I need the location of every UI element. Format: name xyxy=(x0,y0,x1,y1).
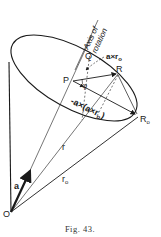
cone-left-edge xyxy=(9,62,11,212)
label-R0: Ro xyxy=(140,114,151,125)
label-r0: ro xyxy=(62,174,69,185)
label-Q: Q xyxy=(85,51,92,61)
label-R: R xyxy=(116,64,123,74)
label-P: P xyxy=(63,75,69,85)
label-a-cross-r0: a×ro xyxy=(106,52,122,62)
figure-caption: Fig. 43. xyxy=(65,224,95,234)
vector-PR xyxy=(73,74,116,81)
cone-base-ellipse xyxy=(0,18,150,138)
dashed-line-1 xyxy=(96,75,118,118)
vector-r0 xyxy=(11,117,138,212)
label-O: O xyxy=(3,209,10,219)
label-r: r xyxy=(62,142,65,152)
label-a: a xyxy=(14,181,20,191)
label-phi: φ xyxy=(82,81,87,90)
cone-rotation-diagram: Axis of rotation Q P R Ro O φ a×ro -a×(a… xyxy=(0,0,161,237)
